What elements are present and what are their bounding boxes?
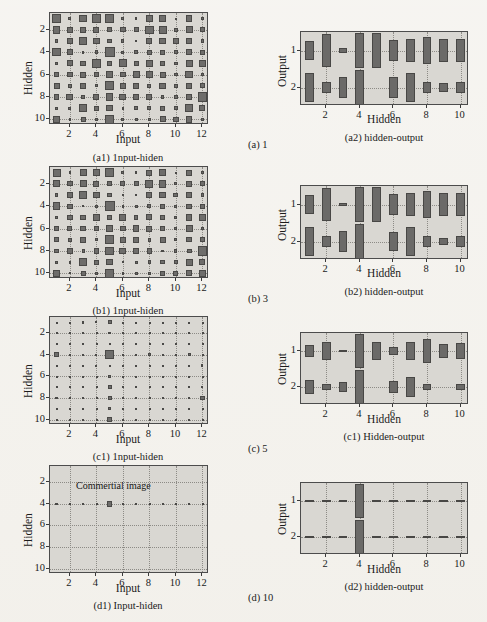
weight-bar [355, 484, 364, 517]
weight-square [175, 408, 177, 410]
weight-square [68, 107, 71, 110]
x-tick-mark [392, 259, 393, 262]
weight-square [67, 72, 72, 77]
weight-square [81, 271, 86, 276]
weight-square [81, 95, 85, 99]
x-tick-label: 12 [196, 283, 207, 294]
weight-square [202, 503, 204, 505]
weight-square [174, 216, 177, 219]
weight-square [96, 386, 98, 388]
x-tick-label: 2 [323, 264, 328, 275]
weight-square [173, 271, 178, 276]
weight-bar [339, 536, 348, 538]
weight-bar [322, 34, 331, 66]
y-tick-mark [46, 205, 49, 206]
weight-square [105, 235, 114, 244]
weight-bar [322, 236, 331, 246]
weight-square [82, 419, 84, 421]
weight-square [186, 15, 192, 21]
weight-square [186, 94, 191, 99]
weight-square [82, 365, 84, 367]
x-tick-mark [148, 424, 149, 427]
weight-square [105, 269, 114, 278]
y-tick-mark [46, 228, 49, 229]
y-tick-mark [46, 96, 49, 97]
weight-square [68, 84, 72, 88]
weight-square [108, 375, 111, 378]
weight-square [54, 249, 59, 254]
x-tick-label: 10 [170, 129, 181, 140]
y-tick-mark [297, 536, 300, 537]
weight-square [69, 408, 71, 410]
weight-square [160, 237, 166, 243]
weight-square [67, 192, 72, 197]
x-tick-mark [175, 424, 176, 427]
weight-square [146, 60, 152, 66]
weight-square [146, 192, 152, 198]
y-axis-title-a1: Hidden [22, 61, 34, 95]
weight-bar [372, 187, 381, 221]
weight-square [69, 118, 72, 121]
weight-bar [305, 380, 314, 395]
weight-square [122, 107, 125, 110]
weight-square [202, 376, 204, 378]
weight-square [82, 343, 84, 345]
weight-square [160, 271, 165, 276]
weight-square [199, 259, 205, 265]
weight-bar [355, 520, 364, 553]
weight-square [54, 226, 58, 230]
weight-square [160, 215, 165, 220]
weight-square [174, 106, 178, 110]
weight-square [159, 26, 167, 34]
x-tick-label: 4 [93, 129, 98, 140]
weight-square [122, 343, 124, 345]
weight-square [188, 353, 191, 356]
weight-square [161, 250, 164, 253]
x-tick-mark [359, 554, 360, 557]
gridline-horizontal [50, 119, 207, 120]
y-tick-mark [46, 546, 49, 547]
weight-square [135, 40, 138, 43]
weight-square [146, 214, 152, 220]
y-tick-mark [46, 568, 49, 569]
weight-square [146, 71, 152, 77]
weight-bar [406, 500, 415, 502]
y-axis-title-c2: Output [276, 353, 288, 385]
gridline-vertical [427, 483, 428, 553]
weight-square [107, 193, 112, 198]
weight-square [121, 39, 124, 42]
weight-square [55, 107, 58, 110]
weight-square [105, 81, 114, 90]
weight-square [134, 215, 138, 219]
weight-square [162, 354, 164, 356]
weight-square [149, 386, 151, 388]
weight-square [120, 83, 126, 89]
weight-square [55, 216, 58, 219]
gridline-horizontal [50, 251, 207, 252]
weight-square [106, 93, 113, 100]
weight-square [201, 227, 204, 230]
weight-square [146, 15, 153, 22]
weight-square [149, 376, 151, 378]
weight-square [95, 205, 98, 208]
y-axis-title-d1: Hidden [22, 513, 34, 547]
weight-square [56, 322, 58, 324]
weight-square [188, 365, 190, 367]
gridline-horizontal [50, 525, 207, 526]
x-axis-title-b1: Input [116, 287, 140, 299]
weight-square [106, 225, 113, 232]
weight-square [135, 205, 138, 208]
x-tick-mark [325, 404, 326, 407]
weight-bar [406, 193, 415, 215]
y-tick-label: 10 [27, 413, 45, 424]
weight-square [121, 17, 124, 20]
y-tick-mark [297, 204, 300, 205]
weight-square [82, 321, 84, 323]
weight-square [69, 354, 71, 356]
weight-square [69, 332, 71, 334]
gridline-horizontal [50, 273, 207, 274]
weight-square [149, 343, 151, 345]
weight-square [120, 237, 126, 243]
weight-square [135, 354, 137, 356]
weight-square [186, 192, 191, 197]
